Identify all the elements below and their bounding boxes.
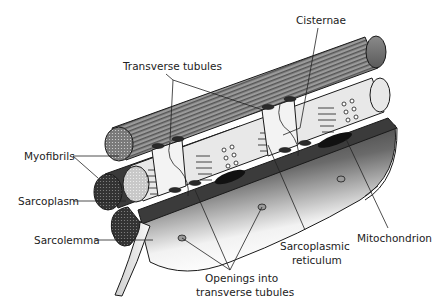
- label-transverse-tubules: Transverse tubules: [122, 60, 222, 72]
- label-cisternae: Cisternae: [296, 14, 346, 26]
- label-sarcoplasm: Sarcoplasm: [18, 195, 79, 207]
- label-sarcolemma: Sarcolemma: [34, 234, 100, 246]
- label-openings-line1: Openings into: [205, 272, 278, 284]
- muscle-fiber-diagram: Cisternae Transverse tubules Myofibrils …: [0, 0, 445, 308]
- label-myofibrils: Myofibrils: [24, 150, 75, 162]
- label-sarcoplasmic-line1: Sarcoplasmic: [280, 240, 350, 252]
- label-sarcoplasmic-line2: reticulum: [292, 254, 342, 266]
- label-openings-line2: transverse tubules: [196, 286, 294, 298]
- label-mitochondrion: Mitochondrion: [357, 232, 432, 244]
